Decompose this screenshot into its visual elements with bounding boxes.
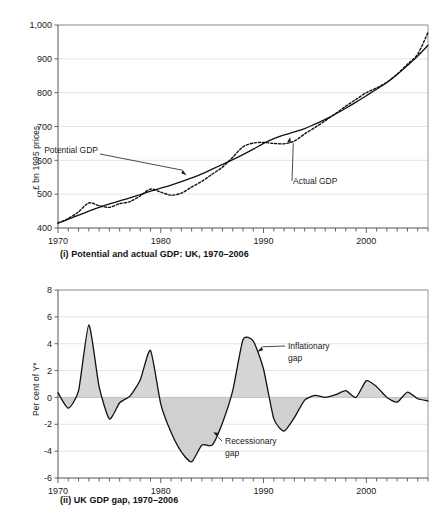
x-tick-label: 1990: [254, 236, 274, 246]
caption-panel-i: (i) Potential and actual GDP: UK, 1970–2…: [60, 249, 249, 259]
y-tick-label: 900: [37, 54, 52, 64]
y-tick-label: 1,000: [29, 20, 52, 30]
x-tick-label: 2000: [356, 486, 376, 496]
y-tick-label: 600: [37, 156, 52, 166]
x-tick-label: 1980: [151, 236, 171, 246]
y-tick-label: 0: [47, 393, 52, 403]
annotation-label-recessionary-gap: Recessionary: [225, 436, 277, 446]
chart-panel-i: 4005006007008009001,0001970198019902000P…: [0, 0, 447, 250]
panel-gdp-gap: Per cent of Y* -6-4-20246819701980199020…: [0, 268, 447, 517]
annotation-leader-inflationary-gap: [262, 346, 285, 347]
caption-panel-ii: (ii) UK GDP gap, 1970–2006: [60, 495, 178, 505]
x-tick-label: 1970: [48, 236, 68, 246]
annotation-arrowhead-inflationary-gap: [257, 347, 263, 352]
series-line-potential-gdp: [58, 45, 428, 223]
annotation-label-recessionary-gap-line2: gap: [225, 448, 239, 458]
x-tick-label: 2000: [356, 236, 376, 246]
y-tick-label: 6: [47, 312, 52, 322]
annotation-label-potential-gdp: Potential GDP: [44, 145, 98, 155]
annotation-label-actual-gdp: Actual GDP: [293, 176, 338, 186]
y-tick-label: 2: [47, 366, 52, 376]
y-tick-label: 800: [37, 88, 52, 98]
y-tick-label: 8: [47, 285, 52, 295]
y-tick-label: 400: [37, 223, 52, 233]
figure-gdp-gap: £ bn 1995 prices 4005006007008009001,000…: [0, 0, 447, 517]
y-tick-label: 4: [47, 339, 52, 349]
annotation-leader-potential-gdp: [100, 154, 182, 170]
annotation-label-inflationary-gap-line2: gap: [288, 353, 302, 363]
x-tick-label: 1990: [254, 486, 274, 496]
y-tick-label: -6: [44, 473, 52, 483]
annotation-arrowhead-actual-gdp: [287, 137, 291, 143]
panel-potential-actual-gdp: £ bn 1995 prices 4005006007008009001,000…: [0, 0, 447, 268]
annotation-leader-recessionary-gap: [218, 437, 222, 441]
y-tick-label: 700: [37, 122, 52, 132]
chart-panel-ii: -6-4-2024681970198019902000Inflationaryg…: [0, 268, 447, 498]
y-tick-label: 500: [37, 189, 52, 199]
annotation-arrowhead-potential-gdp: [181, 170, 186, 175]
annotation-label-inflationary-gap: Inflationary: [288, 341, 330, 351]
y-tick-label: -2: [44, 419, 52, 429]
y-tick-label: -4: [44, 446, 52, 456]
